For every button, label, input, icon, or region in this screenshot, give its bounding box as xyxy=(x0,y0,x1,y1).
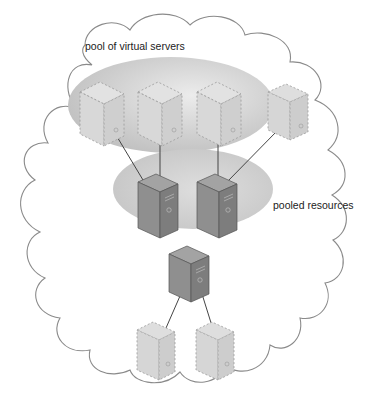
virtual-server-2 xyxy=(138,82,182,146)
physical-server-1 xyxy=(138,174,178,238)
virtual-server-4 xyxy=(268,84,308,140)
virtual-server-3 xyxy=(197,82,241,146)
pooled-resources-label: pooled resources xyxy=(273,199,354,211)
physical-server-3 xyxy=(169,246,209,302)
virtual-server-6 xyxy=(196,322,234,380)
virtual-server-5 xyxy=(137,322,175,380)
pool-of-virtual-servers-label: pool of virtual servers xyxy=(85,40,185,52)
physical-server-2 xyxy=(197,174,237,238)
pooled-resources-area xyxy=(113,149,273,229)
virtual-server-1 xyxy=(80,82,124,146)
